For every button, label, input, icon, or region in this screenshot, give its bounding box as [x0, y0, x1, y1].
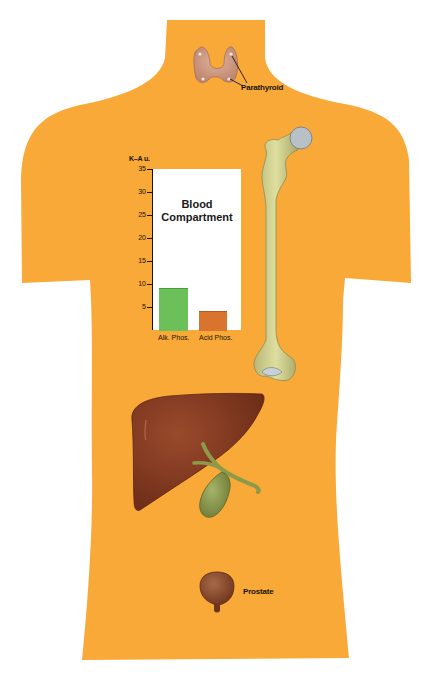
parathyroid-label: Parathyroid — [241, 83, 283, 92]
y-tick-5: 5 — [130, 303, 146, 310]
x-category-alk-phos: Alk. Phos. — [158, 334, 190, 341]
x-category-acid-phos: Acid Phos. — [199, 334, 232, 341]
y-tick-20: 20 — [130, 234, 146, 241]
chart-title-line2: Compartment — [153, 211, 241, 224]
bar-alk-phos — [159, 288, 188, 331]
y-tick-30: 30 — [130, 188, 146, 195]
y-tick-35: 35 — [130, 165, 146, 172]
anatomy-figure: Blood Compartment K–A u. 35 30 25 20 15 … — [0, 0, 429, 684]
bar-acid-phos — [199, 311, 227, 331]
prostate-label: Prostate — [243, 587, 273, 596]
y-tick-10: 10 — [130, 280, 146, 287]
y-tick-15: 15 — [130, 257, 146, 264]
y-axis-unit: K–A u. — [129, 155, 150, 162]
y-tick-25: 25 — [130, 211, 146, 218]
chart-title-line1: Blood — [153, 198, 241, 211]
body-silhouette — [0, 0, 429, 684]
chart-title: Blood Compartment — [153, 198, 241, 224]
femoral-head — [290, 127, 312, 149]
